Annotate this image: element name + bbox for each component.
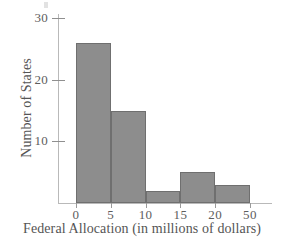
histogram-bar (76, 43, 111, 203)
histogram-bar (215, 185, 250, 203)
y-axis-line (58, 14, 59, 203)
y-axis-tick (52, 80, 65, 81)
histogram-bar (146, 191, 181, 203)
y-axis-title: Number of States (19, 23, 35, 193)
histogram-bar (180, 172, 215, 203)
y-axis-tick (52, 141, 65, 142)
histogram-bar (111, 111, 146, 203)
x-axis-tick-label: 50 (230, 208, 270, 222)
scan-artifact (44, 2, 48, 8)
histogram-chart: 102030 0510152050 Number of States Feder… (0, 0, 284, 239)
x-axis-title: Federal Allocation (in millions of dolla… (0, 221, 284, 237)
y-axis-tick (52, 18, 65, 19)
plot-area (76, 14, 250, 203)
x-axis-line (58, 203, 272, 204)
